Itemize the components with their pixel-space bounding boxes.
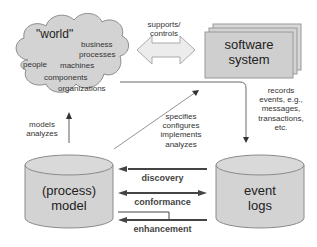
models-analyzes-arrow — [66, 112, 72, 143]
analyzes-line-2: analyzes — [156, 140, 206, 149]
world-title: "world" — [36, 28, 73, 42]
discovery-arrow — [118, 166, 207, 172]
world-item-machines: machines — [60, 61, 94, 70]
world-item-people: people — [23, 60, 47, 69]
enhancement-label: enhancement — [118, 224, 207, 234]
world-item-business: business — [81, 40, 113, 49]
analyzes-line: analyzes — [22, 129, 62, 138]
controls-label-line: controls — [144, 29, 184, 38]
discovery-label: discovery — [118, 173, 207, 183]
conformance-label: conformance — [118, 197, 207, 207]
process-label-line: (process) — [25, 184, 113, 199]
configures-line: configures — [156, 121, 206, 130]
supports-controls-label: supports/ controls — [144, 20, 184, 38]
records-line-5: etc. — [254, 123, 308, 132]
logs-label-line: logs — [216, 199, 304, 214]
event-logs-label: event logs — [216, 184, 304, 214]
specifies-line: specifies — [156, 112, 206, 121]
conformance-arrow — [118, 190, 207, 196]
records-line-4: transactions, — [254, 114, 308, 123]
enhancement-arrow — [118, 212, 207, 223]
model-label-line: model — [25, 199, 113, 214]
records-line-2: events, e.g., — [254, 95, 308, 104]
supports-label-line: supports/ — [144, 20, 184, 29]
models-analyzes-label: models analyzes — [22, 120, 62, 138]
records-line-3: messages, — [254, 104, 308, 113]
event-label-line: event — [216, 184, 304, 199]
world-item-processes: processes — [79, 50, 115, 59]
records-line-1: records — [254, 86, 308, 95]
implements-line: implements — [156, 130, 206, 139]
models-line: models — [22, 120, 62, 129]
system-label-line: system — [205, 53, 293, 68]
process-model-label: (process) model — [25, 184, 113, 214]
specifies-label: specifies configures implements analyzes — [156, 112, 206, 149]
world-item-components: components — [44, 73, 88, 82]
records-events-label: records events, e.g., messages, transact… — [254, 86, 308, 132]
world-item-organizations: organizations — [58, 84, 106, 93]
supports-controls-arrow — [137, 36, 195, 64]
software-system-label: software system — [205, 38, 293, 68]
software-label-line: software — [205, 38, 293, 53]
